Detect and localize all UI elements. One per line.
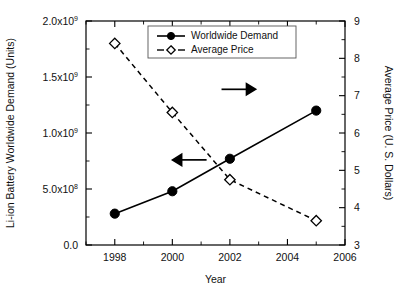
right-axis-arrow-head bbox=[247, 84, 256, 95]
data-point-marker bbox=[110, 209, 119, 218]
legend-item-label: Average Price bbox=[191, 44, 254, 55]
left-axis-arrow-head bbox=[173, 154, 182, 165]
data-point-marker bbox=[168, 187, 177, 196]
y-tick-label: 1.0x109 bbox=[43, 127, 79, 139]
y-tick-label: 5.0x108 bbox=[43, 183, 79, 195]
y2-axis-title: Average Price (U. S. Dollars) bbox=[383, 66, 395, 201]
y2-tick-label: 7 bbox=[354, 89, 360, 101]
series-line-average-price bbox=[115, 43, 316, 220]
y-tick-label: 2.0x109 bbox=[43, 15, 79, 27]
legend-marker bbox=[167, 32, 174, 39]
y2-tick-label: 3 bbox=[354, 239, 360, 251]
x-tick-label: 2006 bbox=[333, 251, 357, 263]
y2-tick-label: 6 bbox=[354, 127, 360, 139]
data-point-marker bbox=[311, 216, 321, 226]
series-layer bbox=[110, 38, 322, 226]
y-axis-title: Li-ion Battery Worldwide Demand (Units) bbox=[4, 38, 16, 228]
chart-figure: 0.05.0x1081.0x1091.5x1092.0x109345678919… bbox=[0, 0, 399, 295]
y2-tick-label: 8 bbox=[354, 52, 360, 64]
x-tick-label: 2004 bbox=[276, 251, 300, 263]
annotations-layer bbox=[173, 84, 256, 166]
chart-legend: Worldwide DemandAverage Price bbox=[148, 26, 296, 58]
data-point-marker bbox=[225, 154, 234, 163]
x-axis-title: Year bbox=[205, 273, 227, 285]
y2-tick-label: 5 bbox=[354, 164, 360, 176]
y2-tick-label: 4 bbox=[354, 201, 360, 213]
y-tick-label: 0.0 bbox=[63, 239, 78, 251]
legend-item-label: Worldwide Demand bbox=[191, 30, 278, 41]
x-tick-label: 2000 bbox=[161, 251, 185, 263]
data-point-marker bbox=[312, 106, 321, 115]
data-point-marker bbox=[110, 38, 120, 48]
y-tick-label: 1.5x109 bbox=[43, 71, 79, 83]
line-chart-canvas: 0.05.0x1081.0x1091.5x1092.0x109345678919… bbox=[0, 0, 399, 295]
x-tick-label: 1998 bbox=[103, 251, 127, 263]
y2-tick-label: 9 bbox=[354, 15, 360, 27]
x-tick-label: 2002 bbox=[218, 251, 242, 263]
